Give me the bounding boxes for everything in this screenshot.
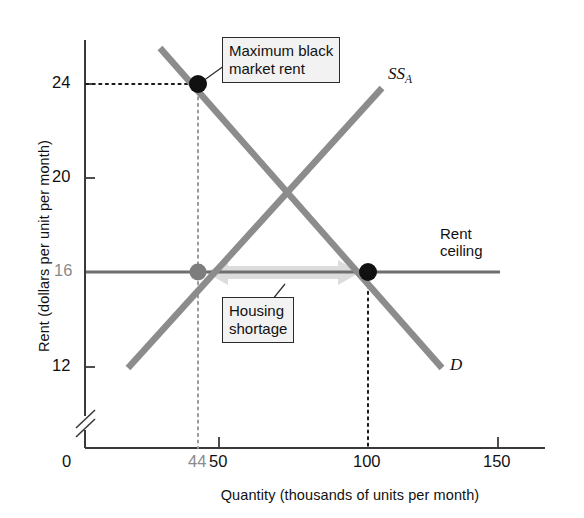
rent-ceiling-label: Rent ceiling (440, 225, 483, 260)
quantity-supplied-point (190, 264, 207, 281)
max-black-market-rent-callout-line1: Maximum black (229, 42, 333, 60)
supply-curve-label-subscript: A (405, 73, 412, 85)
rent-ceiling-chart: Rent (dollars per unit per month) Quanti… (0, 0, 584, 518)
x-axis-title: Quantity (thousands of units per month) (150, 487, 550, 503)
max-black-market-rent-callout-line2: market rent (229, 60, 333, 78)
housing-shortage-callout: Housing shortage (222, 297, 294, 343)
y-tick-label-16: 16 (54, 261, 72, 280)
housing-shortage-callout-line1: Housing (229, 302, 287, 320)
rent-ceiling-label-line2: ceiling (440, 242, 483, 259)
supply-curve-label-text: SS (388, 64, 405, 83)
max-black-market-rent-callout: Maximum black market rent (222, 37, 340, 83)
y-axis-title: Rent (dollars per unit per month) (36, 116, 52, 376)
demand-curve-d (160, 48, 442, 368)
max-black-market-rent-point (189, 75, 207, 93)
y-tick-label-20: 20 (52, 167, 70, 186)
rent-ceiling-label-line1: Rent (440, 225, 483, 242)
housing-shortage-callout-line2: shortage (229, 320, 287, 338)
demand-curve-label: D (450, 355, 462, 375)
supply-curve-label: SSA (388, 64, 412, 85)
x-tick-label-44: 44 (188, 452, 206, 471)
x-tick-label-150: 150 (483, 452, 511, 471)
y-tick-label-24: 24 (52, 73, 70, 92)
y-tick-label-12: 12 (52, 356, 70, 375)
quantity-demanded-point (359, 263, 377, 281)
x-tick-label-100: 100 (353, 452, 381, 471)
x-tick-label-50: 50 (209, 452, 227, 471)
origin-label: 0 (62, 452, 71, 471)
